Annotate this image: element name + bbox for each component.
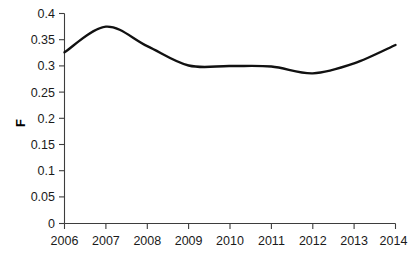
x-tick-label: 2007 — [92, 234, 120, 248]
x-tick-label: 2014 — [380, 234, 408, 248]
line-chart: 0.4 0.35 0.3 0.25 0.2 0.15 0.1 0.05 0 20… — [0, 0, 417, 257]
y-tick-label: 0.2 — [38, 112, 55, 126]
y-tick-label: 0.35 — [31, 33, 55, 47]
y-tick-label: 0.4 — [38, 7, 55, 21]
x-tick-label: 2006 — [51, 234, 79, 248]
x-tick-label: 2010 — [216, 234, 244, 248]
chart-background — [0, 0, 417, 257]
x-tick-label: 2009 — [175, 234, 203, 248]
x-tick-label: 2011 — [258, 234, 285, 248]
y-tick-label: 0.3 — [38, 59, 55, 73]
x-tick-label: 2008 — [133, 234, 161, 248]
x-tick-label: 2013 — [340, 234, 368, 248]
y-tick-label: 0 — [48, 217, 55, 231]
y-tick-label: 0.25 — [31, 86, 55, 100]
y-axis-title: F — [13, 119, 28, 127]
y-tick-label: 0.1 — [38, 164, 55, 178]
chart-canvas: 0.4 0.35 0.3 0.25 0.2 0.15 0.1 0.05 0 20… — [0, 0, 417, 257]
y-tick-label: 0.15 — [31, 138, 55, 152]
y-tick-label: 0.05 — [31, 190, 55, 204]
x-tick-label: 2012 — [299, 234, 327, 248]
